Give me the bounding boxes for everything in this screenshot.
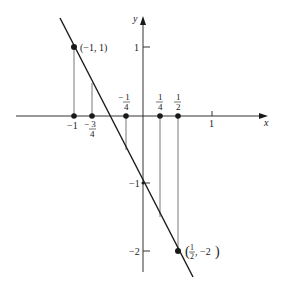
label-neg1-4-den: 4: [124, 102, 129, 112]
graph-line: [60, 18, 193, 277]
svg-text:): ): [215, 244, 220, 260]
label-neg3-4-den: 4: [90, 129, 95, 139]
x-point-1-4: [157, 113, 163, 119]
point-neg1-1: [71, 44, 77, 50]
label-1-4-den: 4: [158, 102, 163, 112]
label-neg1-4-num: − 1: [118, 92, 130, 102]
x-point-neg1-4: [123, 113, 129, 119]
y-axis-arrow-icon: [140, 16, 146, 25]
point-half-neg2: [175, 248, 181, 254]
label-1-2-num: 1: [176, 92, 181, 102]
svg-text:2: 2: [190, 252, 194, 261]
x-tick-label-1: 1: [209, 118, 214, 129]
x-point-neg3-4: [89, 113, 95, 119]
label-neg1: −1: [67, 120, 78, 131]
svg-text:, −2: , −2: [195, 246, 211, 257]
y-tick-label-neg2: −2: [129, 246, 140, 257]
y-tick-label-neg1: −1: [129, 178, 140, 189]
label-1-2-den: 2: [176, 102, 181, 112]
projection-lines: [74, 47, 178, 251]
point-label-half-neg2: ( 1 2 , −2 ): [185, 243, 220, 261]
label-1-4-num: 1: [158, 92, 163, 102]
point-label-neg1-1: (−1, 1): [80, 42, 107, 54]
x-point-1-2: [175, 113, 181, 119]
x-axis-label: x: [263, 117, 269, 128]
label-neg3-4-num: − 3: [84, 119, 96, 129]
svg-text:1: 1: [190, 243, 194, 252]
y-axis-label: y: [132, 13, 138, 24]
axis-ticks: 1 1 −1 −2: [129, 42, 214, 257]
point-y-intercept: [142, 182, 145, 185]
y-tick-label-1: 1: [134, 42, 139, 53]
function-graph-diagram: x y 1 1 −1 −2 −1 − 3: [0, 0, 284, 290]
x-point-neg1: [71, 113, 77, 119]
